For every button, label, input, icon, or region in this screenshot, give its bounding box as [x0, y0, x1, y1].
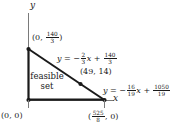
fraction-140-over-3: 1403: [104, 52, 117, 65]
feasible-set-label-line2: set: [41, 81, 54, 91]
fraction-denominator: 8: [92, 116, 105, 123]
fraction-denominator: 19: [127, 90, 136, 97]
vertex-x-intercept-suffix: , 0): [105, 112, 118, 121]
vertex-dot-intersection: [78, 82, 82, 86]
equation-equals: =: [110, 86, 117, 95]
vertex-label-origin: (0, 0): [1, 112, 23, 120]
feasible-set-figure: y x (0, 1403) (0, 0) (49, 14) (5258, 0) …: [0, 0, 187, 133]
vertex-label-intersection: (49, 14): [80, 68, 112, 76]
fraction-numerator: 16: [127, 84, 136, 90]
vertex-y-intercept-prefix: (0,: [32, 33, 45, 42]
fraction-numerator: 140: [46, 31, 59, 37]
y-axis-label: y: [30, 1, 35, 10]
equation-variable: x: [87, 54, 92, 63]
fraction-140-over-3: 1403: [46, 31, 59, 44]
fraction-525-over-8: 5258: [92, 110, 105, 123]
equation-minus-sign: −: [119, 86, 126, 95]
equation-plus-sign: +: [94, 54, 101, 63]
equation-minus-sign: −: [73, 54, 80, 63]
fraction-numerator: 1050: [153, 84, 170, 90]
feasible-set-label-line1: feasible: [30, 71, 64, 81]
fraction-1050-over-19: 105019: [153, 84, 170, 97]
vertex-label-y-intercept: (0, 1403): [32, 31, 62, 44]
vertex-dot-y-intercept: [26, 47, 30, 51]
fraction-denominator: 3: [81, 58, 87, 65]
equation-lhs: y: [57, 54, 62, 63]
vertex-label-x-intercept: (5258, 0): [88, 110, 118, 123]
fraction-denominator: 19: [153, 90, 170, 97]
fraction-numerator: 525: [92, 110, 105, 116]
equation-plus-sign: +: [143, 86, 150, 95]
equation-equals: =: [64, 54, 71, 63]
fraction-numerator: 140: [104, 52, 117, 58]
feasible-set-label: feasible set: [27, 72, 67, 92]
equation-lower-constraint: y = −1619x + 105019: [103, 84, 170, 97]
fraction-denominator: 3: [46, 37, 59, 44]
equation-upper-constraint: y = −23x + 1403: [57, 52, 117, 65]
equation-variable: x: [136, 86, 141, 95]
equation-lhs: y: [103, 86, 108, 95]
fraction-16-over-19: 1619: [127, 84, 136, 97]
fraction-2-over-3: 23: [81, 52, 87, 65]
fraction-denominator: 3: [104, 58, 117, 65]
vertex-y-intercept-suffix: ): [59, 33, 62, 42]
